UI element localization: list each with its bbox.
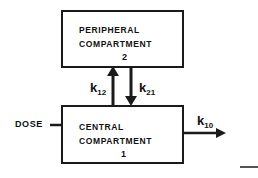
peripheral-label-line2: COMPARTMENT [79,37,152,51]
peripheral-label-line1: PERIPHERAL [79,23,140,37]
dose-label: DOSE [15,119,43,129]
k10-subscript: 10 [204,121,213,130]
central-number: 1 [121,149,126,159]
peripheral-number: 2 [122,52,127,62]
rate-label-k21: k21 [139,80,155,95]
peripheral-compartment-box: PERIPHERAL COMPARTMENT 2 [61,10,184,68]
rate-label-k12: k12 [90,80,106,95]
k12-subscript: 12 [97,88,106,97]
central-label-line1: CENTRAL [79,120,124,134]
central-compartment-box: CENTRAL COMPARTMENT 1 [61,105,184,164]
rate-label-k10: k10 [197,113,213,128]
central-label-line2: COMPARTMENT [79,134,152,148]
k21-subscript: 21 [146,88,155,97]
